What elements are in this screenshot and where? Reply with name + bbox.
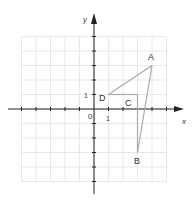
origin-label: 0 (88, 112, 93, 121)
y-axis-label: y (82, 15, 88, 24)
point-label-c: C (125, 98, 132, 108)
x-tick-label-1: 1 (106, 115, 110, 122)
y-tick-label-1: 1 (84, 92, 88, 99)
point-label-a: A (148, 52, 154, 62)
point-label-d: D (99, 93, 106, 103)
y-axis-arrow-icon (91, 13, 97, 24)
coordinate-plane: x y 0 1 1 A B C D (0, 0, 192, 200)
point-label-b: B (134, 156, 140, 166)
x-axis-arrow-icon (174, 106, 184, 112)
x-axis-label: x (181, 117, 187, 126)
